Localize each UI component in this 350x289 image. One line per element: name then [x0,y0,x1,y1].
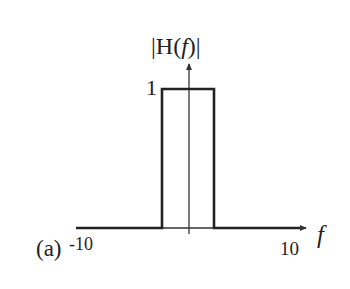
series-line [76,89,300,228]
x-tick-min: -10 [69,235,93,253]
panel-label: (a) [36,237,62,260]
x-axis-label: f [317,222,324,247]
chart-title: |H(f)| [151,34,201,58]
x-tick-max: 10 [280,239,299,258]
y-tick-label: 1 [146,77,157,99]
